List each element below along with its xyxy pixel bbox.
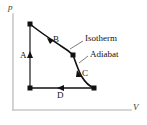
isotherm-label: Isotherm [85,34,117,43]
point-label-a: A [20,51,27,60]
arrow-up-process-a [27,51,33,58]
leader-lines [70,41,88,63]
leader-line-adiabat [79,56,88,63]
pv-diagram-figure: p V A B C D Isotherm Adiabat [0,0,147,125]
state-point-markers [28,22,97,91]
y-axis-label: p [8,3,13,12]
marker-bottom-left [28,86,33,91]
pv-diagram-canvas [0,0,147,125]
leader-line-isotherm [70,41,83,49]
adiabat-label: Adiabat [90,50,119,59]
x-axis-label: V [133,103,139,112]
direction-arrows [27,38,82,91]
marker-top-left [28,22,33,27]
point-label-d: D [57,91,64,100]
point-label-b: B [53,35,59,44]
point-label-c: C [82,69,88,78]
marker-midpoint [71,53,76,58]
marker-bottom-right [92,86,97,91]
